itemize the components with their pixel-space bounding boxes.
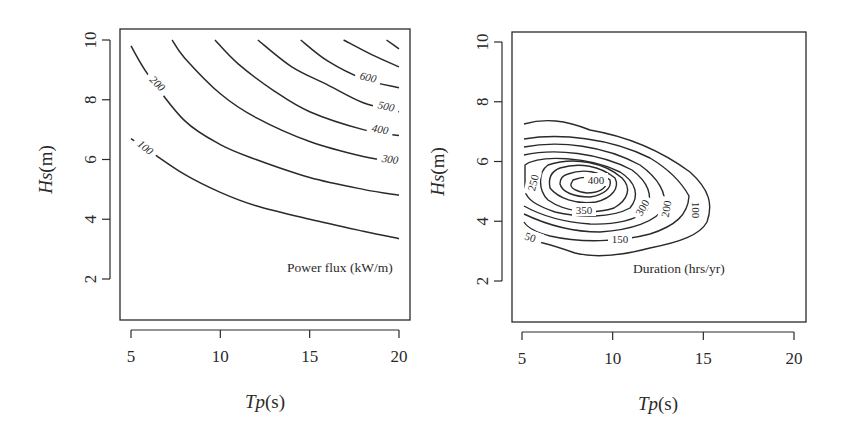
plot-frame (512, 32, 806, 322)
contour-label-text: 400 (371, 122, 390, 137)
x-tick-label: 5 (518, 349, 527, 368)
contour-label: 100 (690, 198, 703, 222)
y-tick-label: 2 (81, 275, 100, 284)
panel-title: Power flux (kW/m) (287, 260, 393, 275)
power-contours: 100200300400500600 (131, 40, 404, 239)
contour-label: 400 (366, 120, 394, 137)
contour-line (524, 144, 665, 232)
contour-label-text: 400 (588, 174, 605, 186)
contour-label-text: 200 (659, 199, 674, 218)
contour-label-text: 100 (690, 202, 702, 219)
contour-label: 350 (572, 203, 596, 216)
contour-label-text: 150 (612, 233, 629, 245)
contour-label: 50 (517, 226, 544, 246)
figure: 5101520Tp(s)246810Hs(m)Power flux (kW/m)… (0, 0, 846, 439)
y-tick-label: 6 (473, 157, 492, 166)
contour-label: 500 (372, 96, 400, 115)
y-axis-label: Hs(m) (35, 145, 57, 195)
contour-label: 300 (376, 150, 404, 166)
contour-label: 150 (608, 232, 632, 245)
x-axis: 5101520Tp(s) (518, 332, 803, 415)
contour-label-text: 350 (576, 204, 593, 216)
y-tick-label: 4 (473, 217, 492, 226)
contour-label-text: 300 (380, 152, 399, 166)
panel-title: Duration (hrs/yr) (633, 261, 725, 276)
x-tick-label: 15 (695, 349, 712, 368)
duration-contours: 40035025030020010015050 (517, 121, 710, 256)
x-tick-label: 10 (604, 349, 621, 368)
y-tick-label: 10 (81, 32, 100, 49)
duration-panel: 5101520Tp(s)246810Hs(m)Duration (hrs/yr)… (427, 32, 806, 415)
y-axis: 246810Hs(m) (427, 34, 502, 286)
contour-line (301, 40, 399, 88)
x-tick-label: 20 (391, 347, 408, 366)
y-axis: 246810Hs(m) (35, 32, 110, 284)
x-tick-label: 10 (212, 347, 229, 366)
x-tick-label: 15 (301, 347, 318, 366)
y-tick-label: 4 (81, 215, 100, 224)
x-axis: 5101520Tp(s) (127, 330, 408, 413)
y-tick-label: 2 (473, 277, 492, 286)
y-tick-label: 6 (81, 155, 100, 164)
contour-line (344, 40, 399, 67)
contour-label: 200 (657, 196, 674, 222)
contour-label: 200 (144, 69, 172, 97)
contour-label: 250 (523, 169, 542, 196)
contour-label: 400 (584, 173, 608, 186)
contour-line (386, 40, 399, 49)
x-tick-label: 5 (127, 347, 136, 366)
y-axis-label: Hs(m) (427, 147, 449, 197)
y-tick-label: 10 (473, 34, 492, 51)
x-tick-label: 20 (786, 349, 803, 368)
x-axis-label: Tp(s) (245, 391, 285, 413)
contour-line (172, 40, 399, 162)
x-axis-label: Tp(s) (638, 393, 678, 415)
y-tick-label: 8 (81, 96, 100, 105)
y-tick-label: 8 (473, 98, 492, 107)
contour-label: 600 (354, 67, 382, 86)
power-flux-panel: 5101520Tp(s)246810Hs(m)Power flux (kW/m)… (35, 29, 410, 413)
